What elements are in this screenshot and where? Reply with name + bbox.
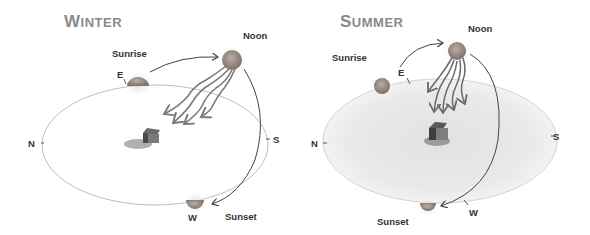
sunrise-sun-icon xyxy=(370,74,394,98)
title-initial: S xyxy=(340,12,352,31)
sunset-sun-icon xyxy=(416,194,440,218)
sunset-label: Sunset xyxy=(377,216,409,227)
title-rest: UMMER xyxy=(352,15,404,30)
sunrise-label: Sunrise xyxy=(332,52,367,63)
sunrise-to-noon-arc xyxy=(150,57,218,72)
winter-title: WINTER xyxy=(64,12,122,32)
summer-panel: SUMMER Noon Sunrise E N S W Sunset xyxy=(295,0,590,235)
sunset-label: Sunset xyxy=(225,211,257,222)
winter-panel: WINTER Noon Sunrise E N S W Sunset xyxy=(0,0,295,235)
east-label: E xyxy=(117,69,123,80)
north-label: N xyxy=(28,138,35,149)
west-label: W xyxy=(469,207,478,218)
sunrise-sun-icon xyxy=(124,70,152,98)
title-rest: INTER xyxy=(81,15,123,30)
noon-label: Noon xyxy=(468,23,492,34)
sunrise-to-noon-arc xyxy=(400,43,443,67)
summer-diagram xyxy=(295,0,590,235)
north-label: N xyxy=(311,138,318,149)
summer-title: SUMMER xyxy=(340,12,403,32)
south-label: S xyxy=(553,131,559,142)
south-label: S xyxy=(273,134,279,145)
horizon-ellipse xyxy=(42,85,268,205)
sunrise-label: Sunrise xyxy=(112,48,147,59)
east-label: E xyxy=(398,67,404,78)
noon-label: Noon xyxy=(243,30,267,41)
title-initial: W xyxy=(64,12,81,31)
west-label: W xyxy=(188,212,197,223)
